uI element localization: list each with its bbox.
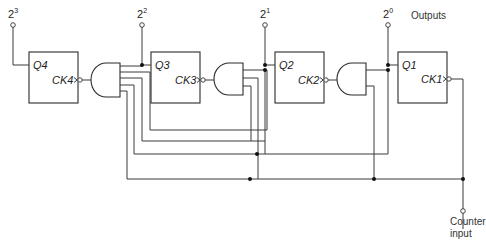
q4-label: Q4 <box>33 60 48 71</box>
output-label-2-1: 21 <box>260 9 270 20</box>
q3-label: Q3 <box>155 60 170 71</box>
ck2-label: CK2 <box>298 75 319 86</box>
ck4-label: CK4 <box>52 75 73 86</box>
output-terminal-2-3 <box>11 23 16 28</box>
and-gate-3 <box>337 63 366 95</box>
output-terminal-2-2 <box>140 23 145 28</box>
output-terminal-2-1 <box>263 23 268 28</box>
counter-input-label: Counter input <box>450 216 486 240</box>
counter-input-terminal <box>461 209 466 214</box>
output-label-2-0: 20 <box>383 9 393 20</box>
and-gate-2 <box>214 63 243 95</box>
and-gate-1 <box>91 63 120 97</box>
counter-circuit <box>0 0 486 242</box>
ck3-label: CK3 <box>175 75 196 86</box>
output-terminal-2-0 <box>386 23 391 28</box>
output-label-2-3: 23 <box>8 9 18 20</box>
output-label-2-2: 22 <box>137 9 147 20</box>
outputs-label: Outputs <box>411 10 446 22</box>
q1-label: Q1 <box>402 60 417 71</box>
ck1-label: CK1 <box>421 74 442 85</box>
q2-label: Q2 <box>279 60 294 71</box>
